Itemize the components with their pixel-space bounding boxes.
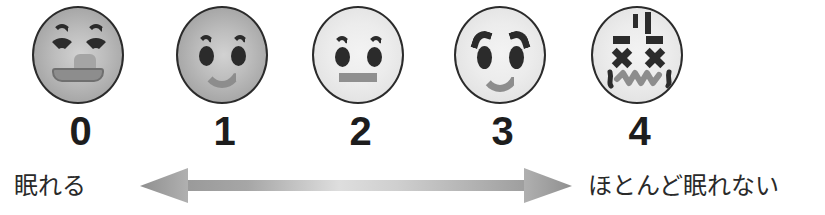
worried-face-icon xyxy=(454,6,546,104)
face-option-4[interactable] xyxy=(591,6,687,106)
scale-number-0[interactable]: 0 xyxy=(32,108,128,154)
numbers-row: 0 1 2 3 4 xyxy=(0,108,825,156)
slightly-smiling-face-icon xyxy=(176,6,268,104)
face-option-3[interactable] xyxy=(454,6,550,106)
dizzy-face-icon xyxy=(591,6,683,104)
double-headed-arrow-icon xyxy=(140,168,572,204)
anchor-label-right: ほとんど眠れない xyxy=(588,166,779,201)
scale-number-2[interactable]: 2 xyxy=(312,108,408,154)
scale-number-4[interactable]: 4 xyxy=(591,108,687,154)
rating-scale: 0 1 2 3 4 眠れる xyxy=(0,0,825,215)
scale-number-1[interactable]: 1 xyxy=(176,108,272,154)
wavy-mouth-icon xyxy=(606,68,674,90)
faces-row xyxy=(0,0,825,108)
anchor-label-left: 眠れる xyxy=(14,166,86,201)
anchors-row: 眠れる xyxy=(0,156,825,215)
face-option-0[interactable] xyxy=(32,6,128,106)
happy-face-icon xyxy=(32,6,124,104)
neutral-face-icon xyxy=(312,6,404,104)
face-option-2[interactable] xyxy=(312,6,408,106)
face-option-1[interactable] xyxy=(176,6,272,106)
scale-number-3[interactable]: 3 xyxy=(454,108,550,154)
